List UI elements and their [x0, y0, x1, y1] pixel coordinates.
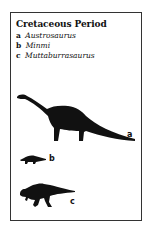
figure-label-c: c — [70, 197, 75, 206]
ornithopod-silhouette-icon — [0, 0, 150, 228]
